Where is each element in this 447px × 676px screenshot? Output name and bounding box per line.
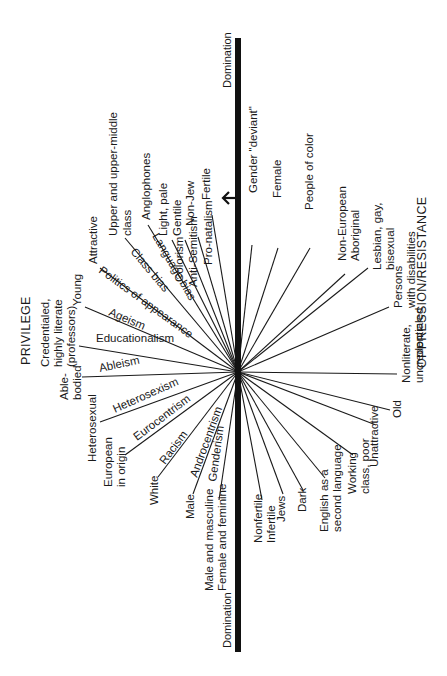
label-feminine: Female and feminine (216, 484, 228, 591)
ism-anti-semitism: Anti-Semitism (187, 216, 199, 287)
label-upper-class-2: class (121, 210, 133, 236)
label-upper-class: Upper and upper-middle (107, 112, 119, 236)
label-esl-1: English as a (318, 469, 330, 532)
label-credentialed-2: highly literate (52, 299, 64, 367)
label-infertile: Infertile (265, 505, 277, 543)
label-non-european-1: Non-European (336, 186, 348, 261)
label-able-1: Able- (58, 373, 70, 400)
label-young: Young (71, 274, 83, 306)
label-attractive: Attractive (87, 216, 99, 264)
oppression-labels: Gender "deviant" Female People of color … (247, 106, 425, 543)
label-nonfertile: Nonfertile (252, 494, 264, 543)
ray-nonliterate (238, 372, 397, 374)
ray-people-of-color (238, 248, 310, 372)
label-nonliterate-1: Nonliterate, (400, 324, 412, 383)
label-masculine: Male and masculine (203, 489, 215, 591)
label-working-class-1: Working (346, 452, 358, 494)
label-european-2: in origin (115, 447, 127, 487)
ism-educationalism: Educationalism (96, 332, 174, 344)
label-anglophones: Anglophones (140, 153, 152, 220)
ray-old (238, 372, 390, 410)
ism-ageism: Ageism (107, 306, 147, 332)
label-lgb-2: bisexual (384, 228, 396, 270)
label-nonliterate-2: uncredentialed (413, 308, 425, 383)
label-able-2: bodied (71, 365, 83, 400)
label-credentialed-3: (professors) (65, 305, 77, 367)
label-esl-2: second language (331, 444, 343, 532)
label-light-pale: Light, pale (157, 183, 169, 236)
label-non-european-2: Aboriginal (349, 210, 361, 261)
ism-ableism: Ableism (98, 354, 141, 374)
ism-colorism: Colorism (173, 237, 185, 282)
label-working-class-2: class, poor (359, 438, 371, 494)
label-disabilities-1: Persons (392, 266, 404, 308)
label-gentile: Gentile (171, 200, 183, 236)
ray-disabilities (238, 307, 389, 372)
axis-top-label: Domination (221, 32, 233, 88)
ism-labels: Class bias Language bias Colorism Anti-S… (96, 200, 226, 482)
ray-nonfertile (238, 372, 262, 500)
label-male: Male (184, 494, 196, 519)
label-people-of-color: People of color (303, 133, 315, 210)
ism-pro-natalism: Pro-natalism (202, 200, 214, 265)
ray-dark (238, 372, 303, 490)
matrix-of-domination-diagram: Domination Domination PRIVILEGE OPPRESSI… (0, 0, 447, 676)
label-disabilities-2: with disabilities (405, 231, 417, 309)
label-fertile: Fertile (200, 168, 212, 200)
axis-bottom-label: Domination (221, 592, 233, 648)
label-credentialed-1: Credentialed, (39, 299, 51, 367)
domination-axis (235, 38, 241, 652)
ray-fertile (212, 215, 238, 372)
ray-jews (238, 372, 283, 494)
label-gender-deviant: Gender "deviant" (247, 106, 259, 193)
privilege-title: PRIVILEGE (19, 296, 33, 365)
label-lgb-1: Lesbian, gay, (371, 202, 383, 270)
ism-racism: Racism (157, 428, 190, 466)
arrow-left-icon (223, 192, 235, 204)
label-heterosexual: Heterosexual (86, 394, 98, 462)
ray-unattractive (238, 372, 376, 425)
label-white: White (148, 476, 160, 505)
ray-lgb (238, 268, 368, 372)
privilege-labels: Upper and upper-middle class Anglophones… (39, 112, 228, 591)
label-european-1: European (102, 437, 114, 487)
label-female: Female (271, 160, 283, 198)
label-old: Old (391, 400, 403, 418)
label-dark: Dark (296, 487, 308, 512)
